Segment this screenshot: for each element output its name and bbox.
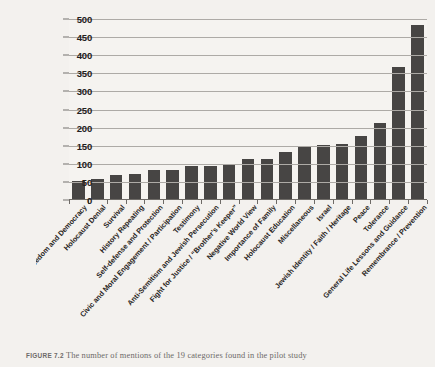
x-axis-labels: Freedom and DemocracyHolocaust DenialSur… bbox=[36, 203, 435, 339]
gridline bbox=[69, 55, 427, 56]
bar bbox=[185, 166, 198, 200]
bar bbox=[166, 170, 179, 200]
gridline bbox=[69, 128, 427, 129]
bar bbox=[261, 159, 274, 200]
y-axis-tick-mark bbox=[63, 163, 69, 164]
plot-area bbox=[69, 19, 427, 200]
bar bbox=[317, 145, 330, 200]
y-axis-tick-mark bbox=[63, 19, 69, 20]
bar bbox=[298, 146, 311, 200]
bar bbox=[374, 123, 387, 200]
y-axis-tick-mark bbox=[63, 91, 69, 92]
y-axis-tick-mark bbox=[63, 73, 69, 74]
gridline bbox=[69, 37, 427, 38]
x-axis-line bbox=[69, 199, 427, 200]
y-axis-tick-mark bbox=[63, 145, 69, 146]
bar bbox=[204, 166, 217, 200]
y-axis-tick-mark bbox=[63, 37, 69, 38]
bar bbox=[129, 174, 142, 200]
gridline bbox=[69, 91, 427, 92]
chart-plot-wrapper: 050100150200250300350400450500 bbox=[36, 12, 432, 207]
bar bbox=[411, 25, 424, 200]
y-axis-tick-mark bbox=[63, 109, 69, 110]
y-axis-tick-mark bbox=[63, 181, 69, 182]
bar bbox=[148, 170, 161, 200]
figure-caption: FIGURE 7.2 The number of mentions of the… bbox=[26, 350, 426, 361]
gridline bbox=[69, 182, 427, 183]
gridline bbox=[69, 19, 427, 20]
bar bbox=[336, 144, 349, 200]
y-axis-tick-mark bbox=[63, 200, 69, 201]
gridline bbox=[69, 146, 427, 147]
figure-caption-text: The number of mentions of the 19 categor… bbox=[66, 351, 307, 360]
bar bbox=[110, 175, 123, 200]
gridline bbox=[69, 73, 427, 74]
figure-number: FIGURE 7.2 bbox=[26, 352, 64, 359]
gridline bbox=[69, 164, 427, 165]
bar bbox=[279, 152, 292, 200]
y-axis-tick-mark bbox=[63, 55, 69, 56]
bar bbox=[242, 159, 255, 200]
figure-root: Number of Mentions 050100150200250300350… bbox=[0, 0, 435, 367]
gridline bbox=[69, 110, 427, 111]
bar bbox=[392, 67, 405, 200]
y-axis-tick-mark bbox=[63, 127, 69, 128]
